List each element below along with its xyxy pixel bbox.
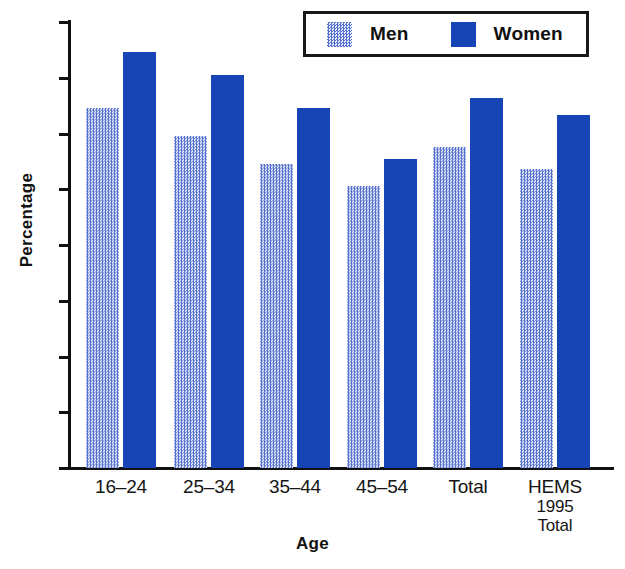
bar-women-1 bbox=[123, 52, 156, 468]
legend: Men Women bbox=[303, 11, 589, 57]
y-axis-tick bbox=[59, 21, 68, 24]
bar-women-2 bbox=[211, 75, 244, 468]
y-axis-tick bbox=[59, 133, 68, 136]
y-axis-tick bbox=[59, 188, 68, 191]
x-axis-label-line: Total bbox=[500, 516, 610, 535]
x-axis-label-line: 1995 bbox=[500, 497, 610, 516]
y-axis-tick bbox=[59, 356, 68, 359]
bar-women-5 bbox=[470, 98, 503, 468]
y-axis-title: Percentage bbox=[17, 125, 37, 315]
bar-men-3 bbox=[260, 164, 293, 468]
y-axis-tick bbox=[59, 467, 68, 470]
x-axis-label-6: HEMS1995Total bbox=[500, 477, 610, 535]
bar-men-1 bbox=[86, 108, 119, 468]
bar-men-2 bbox=[174, 136, 207, 468]
x-axis-title: Age bbox=[0, 534, 625, 554]
bar-men-5 bbox=[433, 147, 466, 468]
y-axis-tick bbox=[59, 411, 68, 414]
legend-label-men: Men bbox=[370, 23, 409, 45]
legend-entry-women: Women bbox=[451, 22, 563, 47]
bar-women-3 bbox=[297, 108, 330, 468]
y-axis-tick bbox=[59, 300, 68, 303]
bar-women-4 bbox=[384, 159, 417, 468]
plot-area bbox=[70, 22, 612, 468]
legend-swatch-women-icon bbox=[451, 22, 476, 47]
legend-swatch-men-icon bbox=[327, 22, 352, 47]
y-axis-tick bbox=[59, 77, 68, 80]
y-axis-tick bbox=[59, 244, 68, 247]
bar-women-6 bbox=[557, 115, 590, 468]
legend-label-women: Women bbox=[494, 23, 563, 45]
x-axis-label-line: HEMS bbox=[500, 477, 610, 497]
bar-men-4 bbox=[347, 186, 380, 468]
bar-men-6 bbox=[520, 169, 553, 468]
bar-chart: Percentage 01020304050607080 16–2425–343… bbox=[0, 0, 625, 569]
legend-entry-men: Men bbox=[327, 22, 409, 47]
